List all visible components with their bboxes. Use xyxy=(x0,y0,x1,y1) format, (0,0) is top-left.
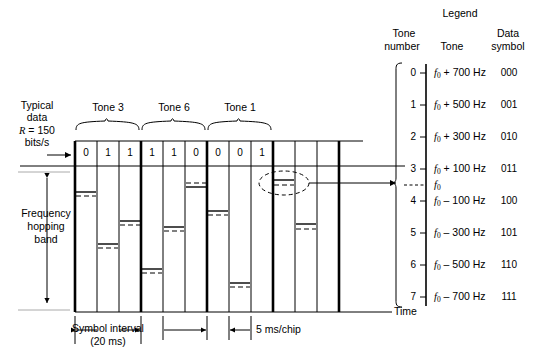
data-bit-8: 1 xyxy=(251,147,273,158)
f0-symbol: f0 xyxy=(434,179,441,190)
data-bit-0: 0 xyxy=(75,147,97,158)
legend-col-data-symbol-l2: symbol xyxy=(482,41,534,53)
data-bit-2: 1 xyxy=(119,147,141,158)
legend-row-0-number: 0 xyxy=(392,67,416,78)
legend-row-7-symbol: 111 xyxy=(486,291,532,302)
typical-data-caption-line2: data xyxy=(4,112,70,124)
legend-center-frequency: f0 xyxy=(434,178,441,192)
figure-vector xyxy=(0,0,539,362)
data-rate-units: bits/s xyxy=(4,137,70,149)
legend-row-6-symbol: 110 xyxy=(486,259,532,270)
legend-row-1-symbol: 001 xyxy=(486,99,532,110)
f0-symbol: f0 xyxy=(434,67,441,78)
legend-col-tone: Tone xyxy=(432,41,472,53)
mid-interval-measure xyxy=(163,316,207,340)
chip-duration-measure xyxy=(229,316,251,340)
legend-col-tone-number-l1: Tone xyxy=(378,28,430,40)
symbol-braces xyxy=(76,119,271,130)
legend-row-4-offset: – 100 Hz xyxy=(444,194,486,206)
band-label-line1: Frequency xyxy=(0,208,92,220)
band-label-line3: band xyxy=(0,234,92,246)
data-rate-caption: R = 150 xyxy=(4,125,70,137)
legend-row-3-tone: f0 + 100 Hz xyxy=(434,162,486,176)
legend-row-0-offset: + 700 Hz xyxy=(444,66,486,78)
legend-row-3-symbol: 011 xyxy=(486,163,532,174)
f0-symbol: f0 xyxy=(434,195,441,206)
legend-row-2-number: 2 xyxy=(392,131,416,142)
legend-col-data-symbol-l1: Data xyxy=(484,28,532,40)
typical-data-caption-line1: Typical xyxy=(4,100,70,112)
data-bit-6: 0 xyxy=(207,147,229,158)
legend-row-0-tone: f0 + 700 Hz xyxy=(434,66,486,80)
legend-row-1-tone: f0 + 500 Hz xyxy=(434,98,486,112)
symbol-label-0: Tone 3 xyxy=(76,101,140,113)
data-bit-7: 0 xyxy=(229,147,251,158)
tone-segments xyxy=(76,180,316,287)
legend-row-5-symbol: 101 xyxy=(486,227,532,238)
f0-symbol: f0 xyxy=(434,131,441,142)
symbol-label-1: Tone 6 xyxy=(142,101,206,113)
legend-row-2-symbol: 010 xyxy=(486,131,532,142)
symbol-interval-value: (20 ms) xyxy=(64,336,152,348)
legend-row-7-tone: f0 – 700 Hz xyxy=(434,290,486,304)
data-bit-5: 0 xyxy=(185,147,207,158)
legend-row-6-number: 6 xyxy=(392,259,416,270)
legend-row-3-offset: + 100 Hz xyxy=(444,162,486,174)
figure-canvas: Typical data R = 150 bits/s Frequency ho… xyxy=(0,0,539,362)
legend-row-0-symbol: 000 xyxy=(486,67,532,78)
legend-row-4-tone: f0 – 100 Hz xyxy=(434,194,486,208)
legend-row-4-symbol: 100 xyxy=(486,195,532,206)
symbol-interval-label: Symbol interval xyxy=(64,323,152,335)
legend-row-6-offset: – 500 Hz xyxy=(444,258,486,270)
legend-row-7-offset: – 700 Hz xyxy=(444,290,486,302)
legend-row-1-number: 1 xyxy=(392,99,416,110)
f0-symbol: f0 xyxy=(434,259,441,270)
legend-row-6-tone: f0 – 500 Hz xyxy=(434,258,486,272)
data-bit-1: 1 xyxy=(97,147,119,158)
f0-symbol: f0 xyxy=(434,227,441,238)
rate-value: = 150 xyxy=(25,124,55,136)
f0-symbol: f0 xyxy=(434,291,441,302)
time-axis-label: Time xyxy=(394,306,417,318)
legend-row-2-tone: f0 + 300 Hz xyxy=(434,130,486,144)
symbol-label-2: Tone 1 xyxy=(208,101,272,113)
legend-row-3-number: 3 xyxy=(392,163,416,174)
legend-col-tone-number-l2: number xyxy=(374,41,430,53)
f0-highlight-annotation xyxy=(259,171,396,195)
legend-title: Legend xyxy=(420,8,500,20)
legend-row-5-number: 5 xyxy=(392,227,416,238)
legend-row-7-number: 7 xyxy=(392,291,416,302)
f0-symbol: f0 xyxy=(434,163,441,174)
legend-row-5-offset: – 300 Hz xyxy=(444,226,486,238)
chip-boundaries xyxy=(75,141,339,312)
data-bit-4: 1 xyxy=(163,147,185,158)
legend-row-4-number: 4 xyxy=(392,195,416,206)
band-label-line2: hopping xyxy=(0,221,92,233)
legend-row-1-offset: + 500 Hz xyxy=(444,98,486,110)
legend-row-2-offset: + 300 Hz xyxy=(444,130,486,142)
legend-row-5-tone: f0 – 300 Hz xyxy=(434,226,486,240)
chip-duration-label: 5 ms/chip xyxy=(256,324,301,336)
data-bit-3: 1 xyxy=(141,147,163,158)
f0-symbol: f0 xyxy=(434,99,441,110)
